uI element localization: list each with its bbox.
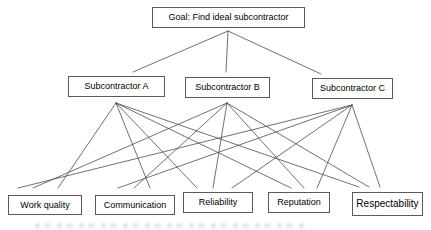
alternative-node-subcontractor-a: Subcontractor A (68, 76, 165, 97)
criterion-node-respectability: Respectability (352, 192, 423, 216)
criterion-node-reliability: Reliability (183, 192, 253, 213)
alternative-node-subcontractor-c: Subcontractor C (312, 78, 393, 99)
hierarchy-diagram: Goal: Find ideal subcontractor Subcontra… (0, 0, 431, 230)
criterion-node-work-quality: Work quality (8, 195, 82, 215)
criterion-node-communication: Communication (95, 195, 175, 215)
alternative-node-subcontractor-b: Subcontractor B (185, 77, 270, 98)
goal-node: Goal: Find ideal subcontractor (152, 7, 305, 28)
criterion-node-reputation: Reputation (268, 192, 330, 213)
cutoff-caption-artifact (35, 223, 307, 228)
